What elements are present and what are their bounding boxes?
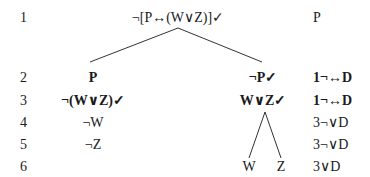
- justification-row4: 3¬∨D: [313, 115, 348, 131]
- root-justification: P: [313, 10, 321, 26]
- right-branch-row3: W∨Z✓: [240, 93, 287, 109]
- line-number-4: 4: [20, 115, 27, 131]
- justification-row5: 3¬∨D: [313, 137, 348, 153]
- right-branch-row2: ¬P✓: [249, 70, 278, 86]
- sub-branch-line-left: [249, 112, 265, 158]
- left-branch-row4: ¬W: [82, 115, 103, 131]
- root-formula: ¬[P↔(W∨Z)]✓: [132, 10, 224, 26]
- justification-row2: 1¬↔D: [313, 70, 352, 86]
- branch-line-left: [90, 28, 178, 62]
- left-branch-row3: ¬(W∨Z)✓: [61, 93, 125, 109]
- sub-branch-line-right: [265, 112, 281, 158]
- sub-branch-left: W: [242, 159, 255, 175]
- sub-branch-right: Z: [277, 159, 286, 175]
- left-branch-row5: ¬Z: [85, 137, 101, 153]
- line-number-3: 3: [20, 93, 27, 109]
- line-number-1: 1: [20, 10, 27, 26]
- truth-tree: 1 2 3 4 5 6 ¬[P↔(W∨Z)]✓ P P ¬(W∨Z)✓ ¬W ¬…: [0, 0, 370, 177]
- justification-row3: 1¬↔D: [313, 93, 352, 109]
- branch-line-right: [178, 28, 262, 62]
- left-branch-row2: P: [89, 70, 98, 86]
- line-number-5: 5: [20, 137, 27, 153]
- justification-row6: 3∨D: [313, 159, 340, 175]
- line-number-2: 2: [20, 70, 27, 86]
- line-number-6: 6: [20, 159, 27, 175]
